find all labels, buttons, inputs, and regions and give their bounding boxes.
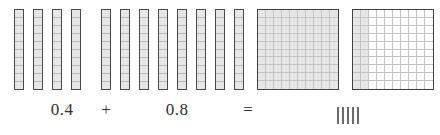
tenth-strip-cell: [178, 66, 186, 74]
grid-cell: [409, 26, 417, 34]
grid-cell: [353, 18, 361, 26]
grid-cell: [282, 81, 290, 89]
grid-cell: [330, 34, 338, 42]
grid-cell: [282, 42, 290, 50]
grid-cell: [314, 57, 322, 65]
grid-cell: [298, 10, 306, 18]
tenth-strip: [71, 9, 81, 90]
tenth-strip-cell: [140, 58, 148, 66]
grid-cell: [258, 73, 266, 81]
grid-cell: [274, 34, 282, 42]
grid-cell: [369, 73, 377, 81]
grid-cell: [298, 81, 306, 89]
tenth-strip-cell: [235, 50, 243, 58]
tenth-strip-cell: [53, 66, 61, 74]
tenth-strip-cell: [34, 34, 42, 42]
tenth-strip-cell: [34, 10, 42, 18]
grid-cell: [314, 18, 322, 26]
tenth-strip-cell: [102, 82, 110, 89]
grid-cell: [425, 81, 433, 89]
grid-cell: [353, 73, 361, 81]
grid-cell: [401, 34, 409, 42]
tenth-strip-cell: [197, 82, 205, 89]
tenth-strip-cell: [72, 10, 80, 18]
grid-cell: [401, 26, 409, 34]
grid-cell: [425, 18, 433, 26]
grid-cell: [425, 34, 433, 42]
grid-cell: [314, 65, 322, 73]
grid-cell: [425, 42, 433, 50]
tenth-strip-cell: [15, 74, 23, 82]
tenth-strip-cell: [140, 18, 148, 26]
grid-cell: [409, 18, 417, 26]
tenth-strip-cell: [159, 42, 167, 50]
grid-cell: [306, 18, 314, 26]
grid-cell: [266, 10, 274, 18]
tenth-strip-cell: [72, 66, 80, 74]
grid-cell: [290, 65, 298, 73]
grid-cell: [290, 81, 298, 89]
tenth-strip-cell: [34, 50, 42, 58]
answer-hatch-mark: [337, 107, 359, 124]
tenth-strip-cell: [15, 82, 23, 89]
grid-cell: [282, 34, 290, 42]
grid-cell: [282, 10, 290, 18]
tenth-strip: [177, 9, 187, 90]
tenth-strip-cell: [140, 82, 148, 89]
grid-cell: [298, 18, 306, 26]
tenth-strip-cell: [121, 74, 129, 82]
operator-plus: +: [95, 98, 117, 122]
grid-cell: [282, 50, 290, 58]
grid-cell: [353, 81, 361, 89]
tenth-strip-cell: [53, 26, 61, 34]
tenth-strip-cell: [197, 66, 205, 74]
grid-cell: [361, 26, 369, 34]
grid-cell: [393, 50, 401, 58]
grid-cell: [369, 81, 377, 89]
tenth-strip-cell: [15, 26, 23, 34]
grid-cell: [401, 73, 409, 81]
grid-cell: [298, 26, 306, 34]
tenth-strip-cell: [102, 42, 110, 50]
grid-cell: [314, 10, 322, 18]
tenth-strip-cell: [34, 18, 42, 26]
grid-cell: [385, 42, 393, 50]
tenth-strip-cell: [178, 42, 186, 50]
tenth-strip-cell: [34, 82, 42, 89]
tenth-strip-cell: [140, 74, 148, 82]
tenth-strip: [158, 9, 168, 90]
tenth-strip-cell: [121, 10, 129, 18]
grid-cell: [425, 26, 433, 34]
grid-cell: [353, 10, 361, 18]
tenth-strip-cell: [197, 58, 205, 66]
grid-cell: [290, 26, 298, 34]
grid-cell: [417, 57, 425, 65]
tenth-strip-cell: [53, 50, 61, 58]
grid-cell: [377, 26, 385, 34]
grid-cell: [290, 18, 298, 26]
grid-cell: [369, 18, 377, 26]
grid-cell: [369, 57, 377, 65]
tenths-strips-group-0-4: [14, 9, 81, 90]
grid-cell: [393, 73, 401, 81]
grid-cell: [322, 10, 330, 18]
tenth-strip-cell: [72, 74, 80, 82]
tenth-strip: [101, 9, 111, 90]
tenth-strip-cell: [140, 34, 148, 42]
grid-cell: [330, 26, 338, 34]
grid-cell: [353, 26, 361, 34]
tenth-strip-cell: [121, 18, 129, 26]
grid-cell: [258, 10, 266, 18]
grid-cell: [306, 42, 314, 50]
grid-cell: [353, 50, 361, 58]
grid-cell: [314, 73, 322, 81]
grid-cell: [369, 10, 377, 18]
grid-cell: [290, 57, 298, 65]
tenth-strip-cell: [216, 82, 224, 89]
tenth-strip-cell: [121, 82, 129, 89]
grid-cell: [361, 73, 369, 81]
tenth-strip-cell: [102, 18, 110, 26]
tenth-strip-cell: [197, 74, 205, 82]
grid-cell: [322, 42, 330, 50]
grid-cell: [274, 50, 282, 58]
